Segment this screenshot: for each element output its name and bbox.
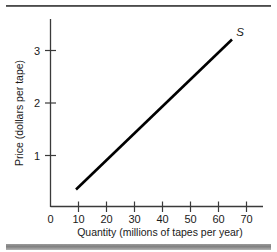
y-tick-label-2: 2 [34,97,40,109]
chart-canvas: 3 2 1 0 10 20 30 40 50 60 70 S Quantity … [0,0,277,252]
y-axis-title: Price (dollars per tape) [13,60,25,166]
supply-curve-label: S [236,26,244,38]
y-tick-label-1: 1 [34,150,40,162]
x-tick-label-70: 70 [240,213,252,225]
y-tick-label-3: 3 [34,45,40,57]
supply-curve-figure: 3 2 1 0 10 20 30 40 50 60 70 S Quantity … [0,0,277,252]
supply-curve-line [76,40,232,190]
x-tick-label-30: 30 [128,213,140,225]
x-tick-label-60: 60 [212,213,224,225]
x-tick-label-40: 40 [156,213,168,225]
x-tick-label-0: 0 [47,213,53,225]
bottom-rule-divider [6,244,271,250]
x-tick-label-50: 50 [184,213,196,225]
x-tick-label-10: 10 [72,213,84,225]
x-tick-label-20: 20 [100,213,112,225]
x-axis-title: Quantity (millions of tapes per year) [77,226,243,238]
